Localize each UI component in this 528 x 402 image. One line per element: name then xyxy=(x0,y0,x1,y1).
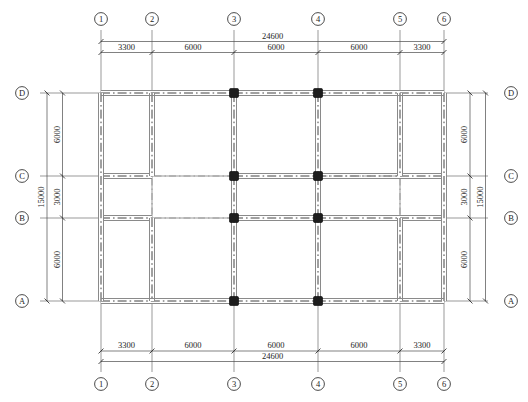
dim-text-3300-0: 3300 xyxy=(118,340,135,350)
dim-text-6000-3: 6000 xyxy=(351,340,368,350)
grid-bubble-top-3[interactable]: 3 xyxy=(228,13,241,26)
beam-axis-C-bay-1-2 xyxy=(101,174,152,179)
beam-layer xyxy=(99,91,447,304)
beam-axis-6 xyxy=(442,93,447,301)
grid-bubble-label: B xyxy=(508,213,514,223)
column-4-C xyxy=(314,172,323,181)
beam-axis-5-seg-B-A xyxy=(398,218,403,301)
grid-bubble-label: A xyxy=(508,296,515,306)
dim-text-3300-4: 3300 xyxy=(414,42,431,52)
column-3-D xyxy=(230,89,239,98)
beam-axis-2-seg-D-C xyxy=(150,93,155,176)
beam-axis-4 xyxy=(316,93,321,301)
column-4-B xyxy=(314,214,323,223)
grid-bubble-left-C[interactable]: C xyxy=(16,170,29,183)
dim-text-6000-3: 6000 xyxy=(351,42,368,52)
grid-bubble-top-1[interactable]: 1 xyxy=(95,13,108,26)
beam-axis-B-bay-3-6 xyxy=(234,216,444,221)
grid-bubble-bottom-6[interactable]: 6 xyxy=(438,378,451,391)
beam-axis-1 xyxy=(99,93,104,301)
dim-text-6000-2: 6000 xyxy=(268,42,285,52)
dim-text-6000-1: 6000 xyxy=(185,42,202,52)
dim-text-6000-2: 6000 xyxy=(52,251,62,268)
grid-bubble-label: 6 xyxy=(442,14,446,24)
grid-bubble-label: 5 xyxy=(398,14,402,24)
grid-bubble-bottom-1[interactable]: 1 xyxy=(95,378,108,391)
grid-bubble-label: B xyxy=(19,213,25,223)
grid-bubble-bottom-2[interactable]: 2 xyxy=(146,378,159,391)
grid-bubble-right-B[interactable]: B xyxy=(505,212,518,225)
grid-bubble-label: D xyxy=(508,88,514,98)
grid-bubble-bottom-4[interactable]: 4 xyxy=(312,378,325,391)
grid-bubble-top-2[interactable]: 2 xyxy=(146,13,159,26)
grid-bubble-left-A[interactable]: A xyxy=(16,295,29,308)
beam-axis-5-seg-D-C xyxy=(398,93,403,176)
grid-bubble-label: 3 xyxy=(232,14,236,24)
dim-total-text: 24600 xyxy=(262,351,283,361)
grid-bubble-label: 6 xyxy=(442,379,446,389)
dimension-top-segments: 33006000600060003300 xyxy=(99,42,447,55)
beam-axis-3 xyxy=(232,93,237,301)
beam-axis-2-seg-B-A xyxy=(150,218,155,301)
dim-text-6000-0: 6000 xyxy=(459,126,469,143)
grid-bubble-bottom-5[interactable]: 5 xyxy=(394,378,407,391)
grid-bubble-label: A xyxy=(19,296,26,306)
grid-bubble-right-C[interactable]: C xyxy=(505,170,518,183)
grid-bubble-label: C xyxy=(508,171,514,181)
dim-text-3300-4: 3300 xyxy=(414,340,431,350)
grid-bubble-right-D[interactable]: D xyxy=(505,87,518,100)
grid-bubble-label: 3 xyxy=(232,379,236,389)
grid-bubble-label: 2 xyxy=(150,14,154,24)
dimension-right-total: 15000 xyxy=(475,91,488,304)
column-3-A xyxy=(230,297,239,306)
grid-bubble-bottom-3[interactable]: 3 xyxy=(228,378,241,391)
grid-bubble-left-B[interactable]: B xyxy=(16,212,29,225)
column-4-A xyxy=(314,297,323,306)
grid-bubble-right-A[interactable]: A xyxy=(505,295,518,308)
dimension-left-total: 15000 xyxy=(36,91,49,304)
dim-text-6000-1: 6000 xyxy=(185,340,202,350)
dim-text-3300-0: 3300 xyxy=(118,42,135,52)
dimension-right-segments: 600030006000 xyxy=(459,91,472,304)
dim-total-text: 15000 xyxy=(475,186,485,207)
grid-bubble-top-6[interactable]: 6 xyxy=(438,13,451,26)
dim-text-3000-1: 3000 xyxy=(52,189,62,206)
column-3-C xyxy=(230,172,239,181)
beam-axis-B-bay-1-2 xyxy=(101,216,152,221)
grid-bubble-label: C xyxy=(19,171,25,181)
grid-bubble-label: 1 xyxy=(99,379,103,389)
dim-text-6000-0: 6000 xyxy=(52,126,62,143)
grid-bubble-top-5[interactable]: 5 xyxy=(394,13,407,26)
dimension-left-segments: 600030006000 xyxy=(52,91,65,304)
structural-framing-plan: 2460033006000600060003300330060006000600… xyxy=(0,0,528,402)
grid-bubble-label: 1 xyxy=(99,14,103,24)
grid-bubble-top-4[interactable]: 4 xyxy=(312,13,325,26)
dim-total-text: 24600 xyxy=(262,31,283,41)
grid-bubble-label: D xyxy=(19,88,25,98)
dim-text-6000-2: 6000 xyxy=(268,340,285,350)
dimension-layer: 2460033006000600060003300330060006000600… xyxy=(36,31,488,364)
grid-bubble-left-D[interactable]: D xyxy=(16,87,29,100)
dimension-bottom-total: 24600 xyxy=(99,351,447,364)
grid-bubble-label: 2 xyxy=(150,379,154,389)
drawing-canvas: 2460033006000600060003300330060006000600… xyxy=(0,0,528,402)
column-layer xyxy=(230,89,323,306)
column-3-B xyxy=(230,214,239,223)
dim-total-text: 15000 xyxy=(36,186,46,207)
gridline-layer xyxy=(40,30,488,372)
dim-text-6000-2: 6000 xyxy=(459,251,469,268)
grid-bubble-label: 5 xyxy=(398,379,402,389)
dim-text-3000-1: 3000 xyxy=(459,189,469,206)
column-4-D xyxy=(314,89,323,98)
